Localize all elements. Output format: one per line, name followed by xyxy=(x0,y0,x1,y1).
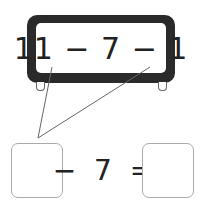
equation-middle: − 7 = xyxy=(68,150,138,190)
answer-box-right[interactable] xyxy=(142,143,194,198)
